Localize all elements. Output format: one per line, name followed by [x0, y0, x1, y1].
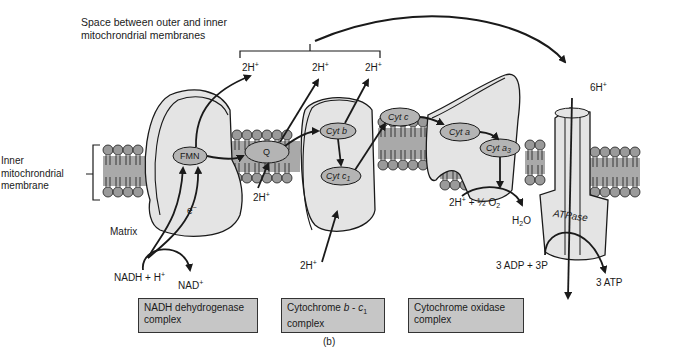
lipid-head	[630, 187, 640, 197]
lipid-head	[440, 180, 450, 190]
lipid-head	[242, 173, 252, 183]
lipid-head	[262, 130, 272, 140]
inner-membrane-label: Inner mitochrondrial membrane	[1, 155, 64, 193]
intermembrane-bracket	[240, 16, 565, 62]
complex-box-line1: Cytochrome b - c1	[287, 302, 379, 318]
lipid-head	[620, 147, 630, 157]
water-label: H2O	[512, 215, 531, 227]
cytochrome-bc1-protein	[301, 98, 375, 232]
cyt-c-label: Cyt c	[388, 111, 409, 123]
lipid-head	[590, 147, 600, 157]
lipid-head	[113, 187, 123, 197]
intermembrane-label-line1: Space between outer and inner	[81, 16, 227, 29]
lipid-head	[600, 147, 610, 157]
intermembrane-space-label: Space between outer and inner mitochrond…	[81, 16, 227, 42]
lipid-head	[525, 140, 535, 150]
lipid-head	[535, 175, 545, 185]
lipid-head	[272, 130, 282, 140]
inner-membrane-label-line3: membrane	[1, 180, 64, 193]
inner-membrane-label-line1: Inner	[1, 155, 64, 168]
lipid-head	[378, 160, 388, 170]
complex-box-cytochrome-bc1: Cytochrome b - c1 complex	[281, 298, 385, 333]
complex-box-line1: Cytochrome oxidase	[414, 302, 518, 314]
cyt-a-label: Cyt a	[449, 126, 470, 138]
proton-label-cytbc1-matrix: 2H+	[300, 260, 317, 272]
cyt-b-label: Cyt b	[326, 125, 347, 137]
lipid-head	[388, 160, 398, 170]
lipid-head	[242, 130, 252, 140]
lipid-head	[133, 187, 143, 197]
complex-box-line2: complex	[287, 318, 379, 330]
cyt-c1-label: Cyt c1	[326, 170, 350, 182]
lipid-head	[610, 187, 620, 197]
proton-label-pump2: 2H+	[312, 62, 329, 74]
lipid-head	[282, 173, 292, 183]
membrane-core	[590, 158, 640, 186]
lipid-head	[398, 160, 408, 170]
lipid-head	[535, 140, 545, 150]
membrane-core	[378, 128, 430, 159]
complex-box-cytochrome-oxidase: Cytochrome oxidase complex	[408, 298, 524, 333]
lipid-head	[408, 160, 418, 170]
lipid-head	[600, 187, 610, 197]
membrane-bracket	[93, 145, 100, 200]
lipid-head	[610, 147, 620, 157]
complex-box-line1: NADH dehydrogenase	[144, 302, 252, 314]
lipid-head	[133, 145, 143, 155]
nadh-label: NADH + H+	[114, 272, 165, 284]
complex-box-line2: complex	[414, 314, 518, 326]
lipid-head	[272, 173, 282, 183]
lipid-head	[620, 187, 630, 197]
fmn-label: FMN	[180, 150, 200, 162]
figure-label: (b)	[323, 336, 335, 348]
complex-box-line2: complex	[144, 314, 252, 326]
oxygen-reaction-label: 2H+ + ½ O2	[449, 197, 500, 209]
lipid-head	[450, 180, 460, 190]
complex-box-nadh-dehydrogenase: NADH dehydrogenase complex	[138, 298, 258, 333]
arrow-nadh-to-nad	[143, 249, 190, 270]
lipid-head	[103, 145, 113, 155]
lipid-head	[232, 130, 242, 140]
lipid-head	[103, 187, 113, 197]
adp-label: 3 ADP + 3P	[496, 260, 548, 272]
matrix-label: Matrix	[110, 226, 137, 238]
nad-label: NAD+	[178, 280, 203, 292]
proton-label-pump1: 2H+	[242, 62, 259, 74]
lipid-head	[630, 147, 640, 157]
lipid-head	[113, 145, 123, 155]
intermembrane-label-line2: mitochrondrial membranes	[81, 29, 227, 42]
lipid-head	[123, 187, 133, 197]
lipid-head	[252, 130, 262, 140]
q-label: Q	[263, 146, 270, 158]
proton-label-q-matrix: 2H+	[253, 192, 270, 204]
lipid-head	[123, 145, 133, 155]
inner-membrane-label-line2: mitochrondrial	[1, 168, 64, 181]
lipid-head	[525, 175, 535, 185]
proton-label-pump3: 2H+	[365, 62, 382, 74]
electron-label: e−	[187, 205, 197, 217]
cyt-a3-label: Cyt a3	[486, 142, 511, 154]
proton-label-atpase: 6H+	[590, 82, 607, 94]
atp-label: 3 ATP	[596, 277, 623, 289]
